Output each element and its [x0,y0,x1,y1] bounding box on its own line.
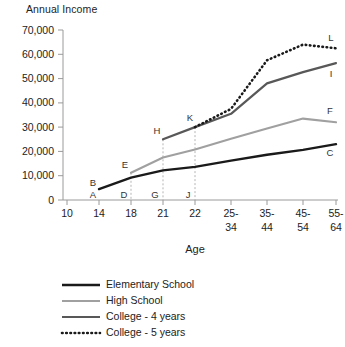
x-axis-ticks [67,200,336,205]
svg-text:54: 54 [297,221,309,233]
svg-text:35-: 35- [259,207,275,219]
x-tick-label-18: 18 [125,207,137,219]
chart-container: Annual Income 0 10,000 20,000 30,000 40,… [0,0,345,347]
svg-text:45-: 45- [295,207,311,219]
y-tick-label-10k: 10,000 [22,169,54,181]
y-tick-label-40k: 40,000 [22,96,54,108]
x-axis-title: Age [185,243,205,255]
x-tick-label-10: 10 [61,207,73,219]
point-label-C: C [327,147,334,158]
series-line-college-4-years [163,63,336,139]
x-tick-label-22: 22 [189,207,201,219]
y-tick-label-70k: 70,000 [22,24,54,36]
legend-item-college-5-years: College - 5 years [62,326,185,338]
series-line-high-school [131,119,336,173]
x-tick-label-45-54: 45- 54 [295,207,311,233]
svg-text:64: 64 [330,221,342,233]
legend-label-college-4-years: College - 4 years [106,310,185,322]
svg-text:25-: 25- [223,207,239,219]
svg-text:44: 44 [261,221,273,233]
point-label-I: I [330,68,333,79]
y-tick-label-0: 0 [48,194,54,206]
y-tick-label-50k: 50,000 [22,72,54,84]
x-tick-label-14: 14 [93,207,105,219]
x-tick-label-55-64: 55- 64 [328,207,344,233]
chart-legend: Elementary School High School College - … [62,278,194,338]
x-tick-label-35-44: 35- 44 [259,207,275,233]
y-axis-ticks [58,30,63,200]
point-label-J: J [186,189,191,200]
point-label-A: A [90,189,97,200]
point-label-E: E [122,159,128,170]
x-tick-label-25-34: 25- 34 [223,207,239,233]
legend-item-high-school: High School [62,294,163,306]
legend-label-college-5-years: College - 5 years [106,326,185,338]
point-label-K: K [187,112,194,123]
x-tick-label-21: 21 [157,207,169,219]
legend-item-elementary-school: Elementary School [62,278,194,290]
svg-text:34: 34 [225,221,237,233]
point-label-D: D [121,189,128,200]
series-line-elementary-school [99,144,336,189]
point-label-F: F [327,105,333,116]
point-label-B: B [90,177,96,188]
income-line-chart: 0 10,000 20,000 30,000 40,000 50,000 60,… [0,0,345,347]
legend-label-high-school: High School [106,294,163,306]
legend-label-elementary-school: Elementary School [106,278,194,290]
y-tick-label-30k: 30,000 [22,121,54,133]
point-label-L: L [328,32,333,43]
y-tick-label-60k: 60,000 [22,48,54,60]
legend-item-college-4-years: College - 4 years [62,310,185,322]
y-tick-label-20k: 20,000 [22,145,54,157]
svg-text:55-: 55- [328,207,344,219]
point-label-G: G [151,189,158,200]
point-label-H: H [154,125,161,136]
